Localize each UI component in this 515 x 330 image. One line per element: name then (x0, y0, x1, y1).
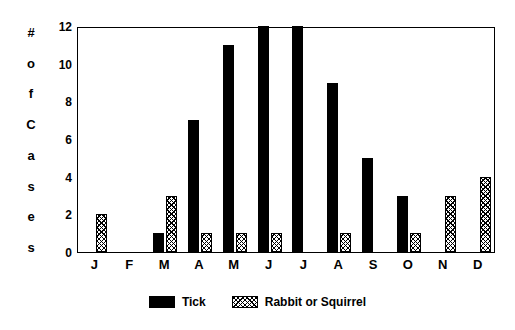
bar-rabbit-or-squirrel-2 (166, 196, 177, 253)
x-axis-tick-6: J (300, 258, 307, 271)
x-axis-tick-2: M (159, 258, 170, 271)
legend-label: Tick (182, 296, 206, 308)
bar-tick-3 (188, 120, 199, 252)
x-axis-tick-11: D (473, 258, 482, 271)
bar-rabbit-or-squirrel-9 (410, 233, 421, 252)
y-axis-label-char: s (27, 241, 34, 254)
x-axis-tick-0: J (91, 258, 98, 271)
bar-tick-9 (397, 196, 408, 253)
bar-tick-6 (292, 26, 303, 252)
bar-tick-4 (223, 45, 234, 252)
bar-rabbit-or-squirrel-0 (96, 214, 107, 252)
x-axis-tick-4: M (228, 258, 239, 271)
y-axis-label: #ofCases (18, 26, 44, 254)
legend-item-tick: Tick (149, 296, 206, 308)
bar-rabbit-or-squirrel-11 (480, 177, 491, 252)
chart-legend: TickRabbit or Squirrel (0, 296, 515, 308)
legend-label: Rabbit or Squirrel (265, 296, 366, 308)
x-axis-tick-9: O (403, 258, 413, 271)
x-axis-tick-3: A (194, 258, 203, 271)
y-axis-tick: 6 (46, 134, 72, 146)
y-axis-label-char: e (27, 210, 34, 223)
y-axis-tick: 8 (46, 96, 72, 108)
y-axis-label-char: o (27, 57, 35, 70)
y-axis-label-char: f (29, 87, 33, 100)
y-axis-label-char: C (26, 118, 35, 131)
y-axis-label-char: a (27, 149, 34, 162)
y-axis-tick: 12 (46, 21, 72, 33)
y-axis-tick: 0 (46, 247, 72, 259)
bars-container (78, 28, 494, 252)
bar-tick-8 (362, 158, 373, 252)
x-axis-tick-labels: JFMAMJJASOND (77, 258, 495, 278)
bar-tick-7 (327, 83, 338, 253)
bar-rabbit-or-squirrel-7 (340, 233, 351, 252)
y-axis-tick: 4 (46, 172, 72, 184)
y-axis-tick-labels: 024681012 (46, 0, 72, 330)
x-axis-tick-10: N (438, 258, 447, 271)
bar-rabbit-or-squirrel-10 (445, 196, 456, 253)
y-axis-tick: 10 (46, 59, 72, 71)
bar-tick-2 (153, 233, 164, 252)
x-axis-tick-5: J (265, 258, 272, 271)
y-axis-label-char: s (27, 180, 34, 193)
x-axis-tick-1: F (125, 258, 133, 271)
bar-tick-5 (258, 26, 269, 252)
bar-chart-figure: #ofCases 024681012 JFMAMJJASOND TickRabb… (0, 0, 515, 330)
y-axis-tick: 2 (46, 209, 72, 221)
y-axis-label-char: # (27, 26, 34, 39)
hatched-swatch (232, 296, 258, 308)
bar-rabbit-or-squirrel-3 (201, 233, 212, 252)
bar-rabbit-or-squirrel-4 (236, 233, 247, 252)
bar-rabbit-or-squirrel-5 (271, 233, 282, 252)
legend-item-rabbit-or-squirrel: Rabbit or Squirrel (232, 296, 366, 308)
plot-area (77, 27, 495, 253)
x-axis-tick-8: S (369, 258, 378, 271)
x-axis-tick-7: A (334, 258, 343, 271)
solid-black-swatch (149, 296, 175, 308)
